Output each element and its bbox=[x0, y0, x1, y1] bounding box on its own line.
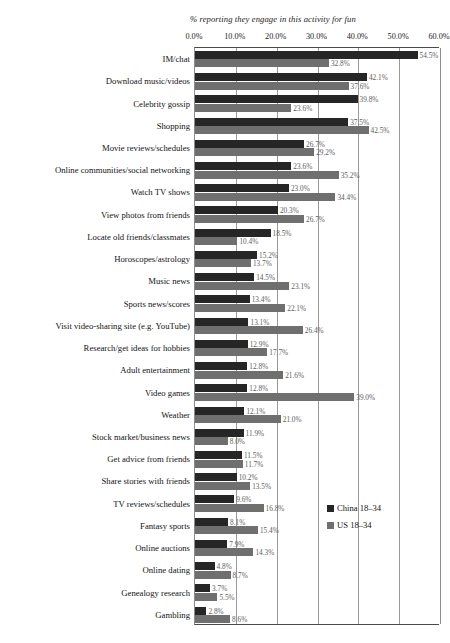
bar-us: 5.5% bbox=[195, 593, 217, 601]
bar-us: 23.1% bbox=[195, 282, 289, 290]
bar-value-label: 26.7% bbox=[306, 215, 325, 224]
bar-group: Video games12.8%39.0% bbox=[195, 381, 439, 403]
category-label: Watch TV shows bbox=[131, 187, 190, 197]
bar-group: Share stories with friends10.2%13.5% bbox=[195, 470, 439, 492]
bar-us: 10.4% bbox=[195, 237, 237, 245]
bar-us: 11.7% bbox=[195, 460, 243, 468]
bar-value-label: 8.6% bbox=[232, 615, 247, 624]
bar-value-label: 23.6% bbox=[293, 103, 312, 112]
category-label: Online auctions bbox=[135, 543, 190, 553]
bar-value-label: 21.6% bbox=[285, 370, 304, 379]
bar-us: 23.6% bbox=[195, 104, 291, 112]
bar-group: Online auctions7.9%14.3% bbox=[195, 537, 439, 559]
bar-value-label: 29.2% bbox=[316, 148, 335, 157]
bar-value-label: 23.1% bbox=[291, 281, 310, 290]
bar-value-label: 23.0% bbox=[291, 184, 310, 193]
bar-group: Locate old friends/classmates18.5%10.4% bbox=[195, 226, 439, 248]
category-label: Movie reviews/schedules bbox=[102, 143, 190, 153]
bar-group: Fantasy sports8.1%15.4% bbox=[195, 515, 439, 537]
bar-group: Horoscopes/astrology15.2%13.7% bbox=[195, 248, 439, 270]
category-label: View photos from friends bbox=[101, 210, 190, 220]
legend-item-china: China 18–34 bbox=[327, 503, 381, 513]
bar-value-label: 13.7% bbox=[253, 259, 272, 268]
category-label: Sports news/scores bbox=[124, 299, 190, 309]
bar-value-label: 54.5% bbox=[420, 50, 439, 59]
x-tick-3: 30.0% bbox=[306, 32, 327, 41]
category-label: Weather bbox=[161, 410, 190, 420]
category-label: Video games bbox=[145, 388, 190, 398]
bar-value-label: 8.0% bbox=[230, 437, 245, 446]
category-label: IM/chat bbox=[162, 54, 190, 64]
category-label: Fantasy sports bbox=[140, 521, 190, 531]
bar-china: 39.8% bbox=[195, 95, 358, 103]
chart-legend: China 18–34US 18–34 bbox=[327, 503, 381, 537]
bar-value-label: 10.4% bbox=[239, 237, 258, 246]
category-label: Genealogy research bbox=[121, 588, 190, 598]
bar-value-label: 42.1% bbox=[369, 73, 388, 82]
bar-value-label: 2.8% bbox=[208, 606, 223, 615]
category-label: Music news bbox=[148, 276, 190, 286]
bar-value-label: 12.8% bbox=[249, 384, 268, 393]
category-label: Share stories with friends bbox=[101, 476, 190, 486]
bar-group: Genealogy research3.7%5.5% bbox=[195, 582, 439, 604]
category-label: Celebrity gossip bbox=[133, 99, 190, 109]
bar-group: Sports news/scores13.4%22.1% bbox=[195, 293, 439, 315]
bar-value-label: 21.0% bbox=[283, 415, 302, 424]
x-tick-6: 60.0% bbox=[428, 32, 449, 41]
legend-label: US 18–34 bbox=[337, 520, 372, 530]
bar-rows: IM/chat54.5%32.8%Download music/videos42… bbox=[195, 48, 439, 624]
x-tick-4: 40.0% bbox=[347, 32, 368, 41]
bar-china: 18.5% bbox=[195, 229, 271, 237]
bar-us: 15.4% bbox=[195, 526, 258, 534]
bar-value-label: 8.1% bbox=[230, 517, 245, 526]
bar-value-label: 8.7% bbox=[233, 570, 248, 579]
bar-value-label: 5.5% bbox=[219, 592, 234, 601]
bar-value-label: 14.5% bbox=[256, 273, 275, 282]
category-label: Research/get ideas for hobbies bbox=[84, 343, 190, 353]
bar-value-label: 18.5% bbox=[273, 228, 292, 237]
bar-us: 34.4% bbox=[195, 193, 335, 201]
bar-china: 12.8% bbox=[195, 384, 247, 392]
bar-china: 54.5% bbox=[195, 51, 418, 59]
bar-us: 8.0% bbox=[195, 437, 228, 445]
bar-value-label: 9.6% bbox=[236, 495, 251, 504]
bar-us: 42.5% bbox=[195, 126, 369, 134]
x-tick-1: 10.0% bbox=[224, 32, 245, 41]
bar-value-label: 13.4% bbox=[252, 295, 271, 304]
bar-us: 26.4% bbox=[195, 326, 303, 334]
bar-us: 17.7% bbox=[195, 348, 267, 356]
bar-china: 7.9% bbox=[195, 540, 227, 548]
bar-value-label: 17.7% bbox=[269, 348, 288, 357]
bar-value-label: 37.5% bbox=[350, 117, 369, 126]
bar-value-label: 11.7% bbox=[245, 459, 264, 468]
bar-value-label: 15.4% bbox=[260, 526, 279, 535]
bar-china: 23.6% bbox=[195, 162, 291, 170]
bar-value-label: 37.6% bbox=[351, 81, 370, 90]
bar-china: 12.8% bbox=[195, 362, 247, 370]
bar-value-label: 12.1% bbox=[246, 406, 265, 415]
bar-value-label: 34.4% bbox=[337, 192, 356, 201]
bar-value-label: 20.3% bbox=[280, 206, 299, 215]
bar-china: 11.5% bbox=[195, 451, 242, 459]
bar-us: 13.5% bbox=[195, 482, 250, 490]
legend-label: China 18–34 bbox=[337, 503, 381, 513]
bar-us: 22.1% bbox=[195, 304, 285, 312]
bar-us: 35.2% bbox=[195, 171, 339, 179]
bar-group: Get advice from friends11.5%11.7% bbox=[195, 448, 439, 470]
bar-us: 8.7% bbox=[195, 571, 231, 579]
bar-china: 3.7% bbox=[195, 584, 210, 592]
x-tick-0: 0.0% bbox=[185, 32, 202, 41]
category-label: Download music/videos bbox=[106, 76, 190, 86]
bar-us: 21.6% bbox=[195, 371, 283, 379]
legend-swatch-icon bbox=[327, 522, 334, 529]
bar-group: Stock market/business news11.9%8.0% bbox=[195, 426, 439, 448]
category-label: Stock market/business news bbox=[92, 432, 190, 442]
bar-us: 32.8% bbox=[195, 59, 329, 67]
bar-china: 12.9% bbox=[195, 340, 248, 348]
bar-china: 11.9% bbox=[195, 429, 244, 437]
category-label: TV reviews/schedules bbox=[113, 499, 190, 509]
bar-group: Online communities/social networking23.6… bbox=[195, 159, 439, 181]
bar-china: 20.3% bbox=[195, 206, 278, 214]
bar-value-label: 26.4% bbox=[305, 326, 324, 335]
